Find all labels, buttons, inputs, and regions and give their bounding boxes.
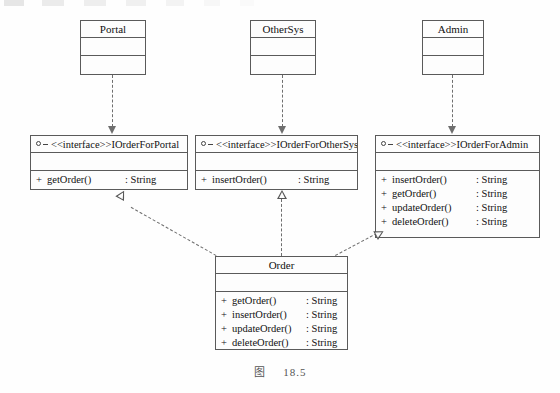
method-signature: getOrder(): [47, 173, 125, 187]
dependency-admin-to-iorderforadmin: [452, 75, 453, 127]
method-type: : String: [476, 215, 507, 229]
dependency-arrowhead-othersys: [278, 126, 286, 134]
interface-name: IOrderForOtherSys: [276, 136, 357, 153]
method-type: : String: [476, 173, 507, 187]
method-signature: updateOrder(): [232, 322, 306, 336]
interface-box-iorderforadmin[interactable]: <<interface>>IOrderForAdmin + insertOrde…: [375, 135, 540, 238]
interface-box-iorderforportal[interactable]: <<interface>>IOrderForPortal + getOrder(…: [30, 135, 188, 190]
class-name-order: Order: [216, 257, 347, 274]
method-row: + insertOrder() : String: [376, 173, 539, 187]
interface-stereotype: <<interface>>: [396, 136, 456, 153]
class-attributes-order: [216, 274, 347, 292]
scan-artifact: [4, 0, 24, 6]
class-box-othersys[interactable]: OtherSys: [250, 20, 316, 75]
method-signature: updateOrder(): [392, 201, 476, 215]
class-box-order[interactable]: Order + getOrder() : String + insertOrde…: [215, 256, 348, 350]
class-name-portal: Portal: [81, 21, 145, 38]
interface-header-iorderforadmin: <<interface>>IOrderForAdmin: [376, 136, 539, 153]
method-row: + getOrder() : String: [216, 294, 347, 308]
interface-operations-iorderforportal: + getOrder() : String: [31, 171, 187, 189]
interface-stereotype: <<interface>>: [51, 136, 111, 153]
class-box-portal[interactable]: Portal: [80, 20, 146, 75]
dependency-portal-to-iorderforportal: [112, 75, 113, 127]
figure-caption-label: 图: [254, 366, 266, 378]
method-signature: insertOrder(): [232, 308, 306, 322]
class-operations-admin: [423, 56, 483, 74]
class-name-othersys: OtherSys: [251, 21, 315, 38]
realization-triangle-iorderforothersys: [277, 190, 287, 199]
method-type: : String: [476, 187, 507, 201]
class-box-admin[interactable]: Admin: [422, 20, 484, 75]
realization-order-to-iorderforothersys: [281, 199, 282, 256]
figure-caption: 图 18.5: [0, 363, 560, 379]
interface-attributes-iorderforportal: [31, 153, 187, 171]
method-row: + getOrder() : String: [31, 173, 187, 187]
method-type: : String: [306, 308, 337, 322]
method-visibility: +: [216, 322, 232, 336]
method-row: + getOrder() : String: [376, 187, 539, 201]
method-type: : String: [125, 173, 156, 187]
interface-lollipop-icon: [201, 140, 213, 148]
method-row: + insertOrder() : String: [196, 173, 357, 187]
interface-lollipop-icon: [381, 140, 393, 148]
method-visibility: +: [376, 215, 392, 229]
method-type: : String: [298, 173, 329, 187]
method-visibility: +: [196, 173, 212, 187]
class-operations-portal: [81, 56, 145, 74]
figure-caption-number: 18.5: [283, 366, 306, 378]
class-attributes-admin: [423, 38, 483, 56]
scan-artifact: [240, 0, 254, 6]
scan-artifact: [204, 0, 220, 6]
method-signature: getOrder(): [392, 187, 476, 201]
uml-diagram-canvas: Portal OtherSys Admin <<interface>>IOrde…: [0, 0, 560, 393]
method-visibility: +: [31, 173, 47, 187]
method-row: + updateOrder() : String: [376, 201, 539, 215]
method-signature: insertOrder(): [392, 173, 476, 187]
method-type: : String: [306, 294, 337, 308]
class-name-admin: Admin: [423, 21, 483, 38]
interface-name: IOrderForPortal: [111, 136, 179, 153]
dependency-othersys-to-iorderforothersys: [282, 75, 283, 127]
dependency-arrowhead-admin: [448, 126, 456, 134]
interface-attributes-iorderforadmin: [376, 153, 539, 171]
method-signature: getOrder(): [232, 294, 306, 308]
method-row: + deleteOrder() : String: [216, 336, 347, 350]
method-visibility: +: [376, 187, 392, 201]
method-visibility: +: [216, 294, 232, 308]
scan-artifact: [84, 0, 106, 6]
interface-box-iorderforothersys[interactable]: <<interface>>IOrderForOtherSys + insertO…: [195, 135, 358, 190]
class-operations-othersys: [251, 56, 315, 74]
interface-operations-iorderforothersys: + insertOrder() : String: [196, 171, 357, 189]
interface-attributes-iorderforothersys: [196, 153, 357, 171]
dependency-arrowhead-portal: [108, 126, 116, 134]
realization-triangle-iorderforportal: [115, 188, 128, 201]
method-visibility: +: [216, 308, 232, 322]
method-visibility: +: [376, 201, 392, 215]
method-signature: insertOrder(): [212, 173, 298, 187]
class-operations-order: + getOrder() : String + insertOrder() : …: [216, 292, 347, 352]
method-visibility: +: [376, 173, 392, 187]
method-type: : String: [476, 201, 507, 215]
scan-artifact: [166, 0, 184, 6]
method-row: + updateOrder() : String: [216, 322, 347, 336]
method-signature: deleteOrder(): [232, 336, 306, 350]
class-attributes-othersys: [251, 38, 315, 56]
interface-operations-iorderforadmin: + insertOrder() : String + getOrder() : …: [376, 171, 539, 231]
interface-header-iorderforothersys: <<interface>>IOrderForOtherSys: [196, 136, 357, 153]
realization-order-to-iorderforportal: [131, 207, 217, 256]
class-attributes-portal: [81, 38, 145, 56]
method-row: + insertOrder() : String: [216, 308, 347, 322]
interface-header-iorderforportal: <<interface>>IOrderForPortal: [31, 136, 187, 153]
method-visibility: +: [216, 336, 232, 350]
interface-lollipop-icon: [36, 140, 48, 148]
scan-artifact: [126, 0, 146, 6]
method-type: : String: [306, 336, 337, 350]
method-type: : String: [306, 322, 337, 336]
method-row: + deleteOrder() : String: [376, 215, 539, 229]
interface-stereotype: <<interface>>: [216, 136, 276, 153]
scan-artifact: [42, 0, 64, 6]
method-signature: deleteOrder(): [392, 215, 476, 229]
interface-name: IOrderForAdmin: [456, 136, 528, 153]
